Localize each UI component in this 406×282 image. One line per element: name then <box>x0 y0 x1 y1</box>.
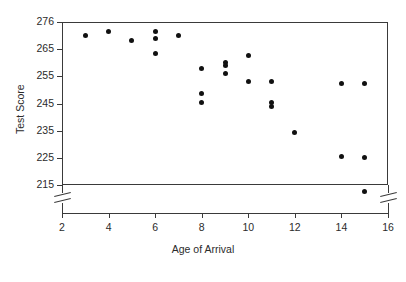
y-tick-mark <box>57 49 62 50</box>
x-axis-line <box>62 213 388 214</box>
y-tick-mark <box>57 158 62 159</box>
y-tick-label: 265 <box>14 42 54 54</box>
plot-area-frame <box>62 22 388 185</box>
scatter-plot-figure: Test Score Age of Arrival 21522523524525… <box>0 0 406 282</box>
data-point <box>199 66 204 71</box>
data-point <box>362 189 367 194</box>
x-tick-mark <box>388 213 389 218</box>
x-tick-label: 16 <box>368 221 406 233</box>
data-point <box>199 100 204 105</box>
y-tick-mark <box>57 22 62 23</box>
data-point <box>83 33 88 38</box>
y-tick-label: 235 <box>14 124 54 136</box>
data-point <box>269 104 274 109</box>
data-point <box>339 154 344 159</box>
data-point <box>362 81 367 86</box>
x-tick-label: 8 <box>182 221 222 233</box>
data-point <box>153 36 158 41</box>
x-tick-label: 2 <box>42 221 82 233</box>
y-tick-label: 245 <box>14 97 54 109</box>
x-tick-label: 12 <box>275 221 315 233</box>
y-tick-label: 276 <box>14 15 54 27</box>
x-axis-label: Age of Arrival <box>0 243 406 255</box>
x-tick-label: 4 <box>89 221 129 233</box>
data-point <box>339 81 344 86</box>
y-tick-label: 225 <box>14 151 54 163</box>
x-tick-label: 6 <box>135 221 175 233</box>
x-tick-label: 14 <box>321 221 361 233</box>
data-point <box>153 51 158 56</box>
y-tick-label: 215 <box>14 178 54 190</box>
data-point <box>223 71 228 76</box>
y-tick-mark <box>57 131 62 132</box>
data-point <box>223 63 228 68</box>
y-tick-mark <box>57 104 62 105</box>
data-point <box>176 33 181 38</box>
y-tick-label: 255 <box>14 69 54 81</box>
x-tick-label: 10 <box>228 221 268 233</box>
y-tick-mark <box>57 76 62 77</box>
data-point <box>292 130 297 135</box>
